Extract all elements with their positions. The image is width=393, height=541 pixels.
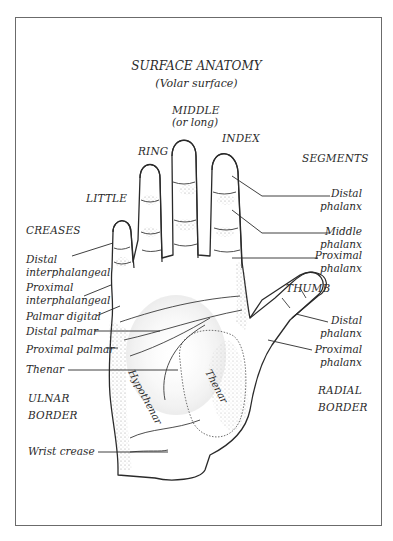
segments-heading: SEGMENTS (302, 152, 369, 165)
crease-proximal-palmar: Proximal palmar (26, 343, 114, 356)
creases-heading: CREASES (26, 224, 81, 237)
finger-label-little: LITTLE (86, 192, 127, 205)
crease-distal-interphalangeal: Distal interphalangeal (26, 253, 110, 279)
segment-middle-phalanx: Middle phalanx (300, 225, 362, 251)
radial-border-line2: BORDER (318, 401, 368, 414)
figure-subtitle: (Volar surface) (0, 77, 393, 90)
hand-outline (109, 140, 323, 480)
crease-proximal-interphalangeal: Proximal interphalangeal (26, 281, 110, 307)
thumb-distal-phalanx: Distal phalanx (300, 314, 362, 340)
ulnar-border-line2: BORDER (28, 409, 78, 422)
segment-distal-phalanx: Distal phalanx (300, 187, 362, 213)
finger-label-ring: RING (138, 145, 168, 158)
segment-proximal-phalanx: Proximal phalanx (300, 249, 362, 275)
thumb-proximal-phalanx: Proximal phalanx (300, 343, 362, 369)
radial-border-line1: RADIAL (318, 384, 362, 397)
crease-wrist: Wrist crease (28, 445, 95, 458)
finger-label-index: INDEX (222, 132, 260, 145)
crease-distal-palmar: Distal palmar (26, 325, 98, 338)
finger-label-middle-alt: (or long) (172, 116, 218, 129)
figure-title: SURFACE ANATOMY (0, 60, 393, 73)
ulnar-border-line1: ULNAR (28, 392, 70, 405)
crease-palmar-digital: Palmar digital (26, 310, 101, 323)
finger-label-thumb: THUMB (286, 282, 330, 295)
crease-thenar: Thenar (26, 363, 64, 376)
